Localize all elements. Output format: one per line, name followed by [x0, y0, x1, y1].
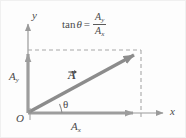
origin-label: O [16, 113, 24, 124]
formula-fraction: Ay Ax [93, 11, 106, 38]
vector-a-label: A [68, 69, 76, 81]
formula-denominator-subscript: x [101, 30, 104, 38]
formula-denominator: Ax [93, 25, 106, 38]
component-ay-label: Ay [9, 71, 19, 84]
formula-numerator: Ay [93, 11, 106, 24]
component-ay-base: A [9, 70, 16, 82]
y-axis-label: y [32, 10, 37, 21]
component-ax-subscript: x [78, 126, 81, 134]
component-ax-label: Ax [71, 121, 81, 134]
vector-components-figure: y x O Ay Ax A θ tan θ = Ay Ax [0, 0, 186, 138]
vector-a-arrow [29, 55, 134, 112]
x-axis-label: x [170, 106, 175, 117]
formula-tan: tan [62, 19, 75, 30]
formula-equals: = [84, 19, 90, 30]
component-ay-subscript: y [16, 76, 19, 84]
angle-theta-label: θ [63, 99, 68, 110]
component-ax-base: A [71, 120, 78, 132]
formula-numerator-subscript: y [101, 16, 104, 24]
tangent-formula: tan θ = Ay Ax [62, 11, 106, 38]
formula-theta: θ [76, 19, 81, 30]
vector-overbar-arrow-icon [68, 69, 77, 74]
